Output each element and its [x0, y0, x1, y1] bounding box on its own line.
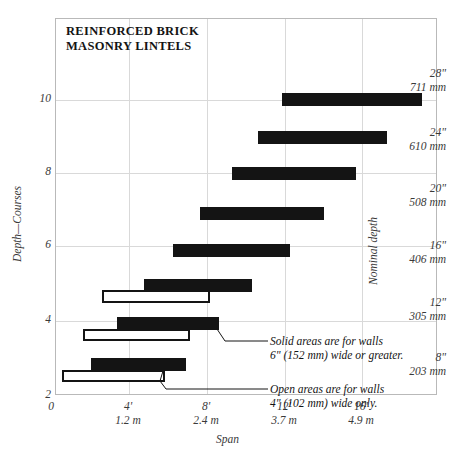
depth-label-20in-mm: 508 mm [409, 196, 446, 208]
depth-label-28in-mm: 711 mm [410, 81, 446, 93]
depth-label-8in-inches: 8" [435, 351, 446, 363]
depth-label-12in-mm: 305 mm [409, 310, 446, 322]
x-tick-4ft-metric: 1.2 m [108, 414, 148, 426]
depth-label-8in: 8" 203 mm [409, 350, 446, 378]
right-axis-title: Nominal depth [367, 196, 379, 306]
x-tick-0: 0 [31, 400, 71, 414]
x-tick-8ft-feet: 8' [202, 400, 210, 412]
depth-label-28in-inches: 28" [430, 67, 446, 79]
x-axis-title: Span [0, 433, 455, 445]
depth-label-16in: 16" 406 mm [409, 238, 446, 266]
x-tick-16ft-metric: 4.9 m [341, 414, 381, 426]
annotation-solid-areas: Solid areas are for walls 6" (152 mm) wi… [270, 334, 403, 362]
x-tick-4ft-feet: 4' [124, 400, 132, 412]
depth-label-24in-mm: 610 mm [409, 140, 446, 152]
x-axis-tick-labels: 0 4' 1.2 m 8' 2.4 m 12' 3.7 m 16' 4.9 m [0, 0, 455, 468]
depth-label-20in-inches: 20" [430, 182, 446, 194]
x-tick-4ft: 4' 1.2 m [108, 400, 148, 426]
depth-label-16in-inches: 16" [430, 239, 446, 251]
depth-label-24in-inches: 24" [430, 126, 446, 138]
depth-label-8in-mm: 203 mm [409, 365, 446, 377]
depth-label-16in-mm: 406 mm [409, 253, 446, 265]
x-tick-8ft-metric: 2.4 m [186, 414, 226, 426]
depth-label-28in: 28" 711 mm [410, 66, 446, 94]
x-tick-8ft: 8' 2.4 m [186, 400, 226, 426]
x-tick-12ft-metric: 3.7 m [264, 414, 304, 426]
depth-label-20in: 20" 508 mm [409, 181, 446, 209]
depth-label-12in: 12" 305 mm [409, 295, 446, 323]
chart-screenshot: REINFORCED BRICK MASONRY LINTELS 10 8 6 … [0, 0, 455, 468]
annotation-open-areas: Open areas are for walls 4" (102 mm) wid… [270, 382, 384, 410]
y-axis-title: Depth—Courses [11, 169, 23, 279]
x-tick-0-feet: 0 [48, 400, 54, 412]
depth-label-24in: 24" 610 mm [409, 125, 446, 153]
depth-label-12in-inches: 12" [430, 296, 446, 308]
